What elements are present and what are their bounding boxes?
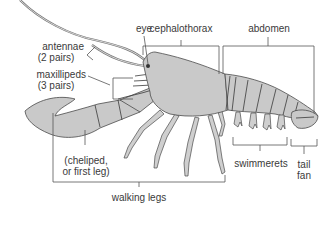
label-cephalothorax: cephalothorax: [145, 23, 217, 34]
walking-legs-drawing: [124, 110, 225, 176]
cephalothorax-drawing: [143, 52, 228, 116]
label-cheliped: (cheliped,: [56, 155, 116, 166]
label-antennae: antennae: [20, 41, 84, 52]
label-antennae-note: (2 pairs): [28, 52, 84, 63]
label-maxillipeds-note: (3 pairs): [28, 80, 84, 91]
label-abdomen: abdomen: [243, 23, 295, 34]
label-cheliped-note: or first leg): [56, 166, 116, 177]
label-fan: fan: [293, 170, 315, 181]
label-walking-legs: walking legs: [104, 192, 174, 203]
label-swimmerets: swimmerets: [230, 158, 292, 169]
label-tail: tail: [293, 159, 315, 170]
label-maxillipeds: maxillipeds: [20, 69, 86, 80]
